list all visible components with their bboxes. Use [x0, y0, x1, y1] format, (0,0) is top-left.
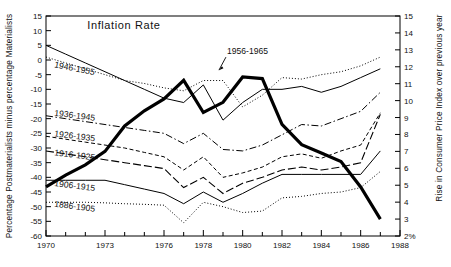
y-tick-label-right: 4 [404, 198, 409, 207]
y-tick-label-right: 2% [404, 232, 416, 241]
y-tick-label-left: 10 [33, 27, 42, 36]
y-tick-label-left: -30 [30, 144, 42, 153]
y-tick-label-left: -45 [30, 188, 42, 197]
x-tick-label: 1980 [234, 241, 252, 250]
y-tick-label-right: 8 [404, 130, 409, 139]
y-tick-label-right: 15 [404, 12, 413, 21]
y-tick-label-right: 14 [404, 29, 413, 38]
y-tick-label-left: -55 [30, 217, 42, 226]
y-tick-label-left: -20 [30, 115, 42, 124]
y-tick-label-left: -25 [30, 129, 42, 138]
y-tick-label-right: 5 [404, 181, 409, 190]
y-axis-right-title: Rise in Consumer Price Index over previo… [435, 14, 444, 201]
y-tick-label-right: 6 [404, 164, 409, 173]
y-tick-label-right: 10 [404, 97, 413, 106]
y-tick-label-right: 7 [404, 147, 409, 156]
y-tick-label-left: -5 [35, 71, 43, 80]
chart-title-label: Inflation Rate [87, 19, 160, 31]
x-tick-label: 1970 [37, 241, 55, 250]
y-tick-label-right: 11 [404, 80, 413, 89]
x-tick-label: 1984 [312, 241, 330, 250]
x-tick-label: 1982 [273, 241, 291, 250]
y-tick-label-left: -10 [30, 85, 42, 94]
y-tick-label-right: 13 [404, 46, 413, 55]
x-tick-label: 1978 [194, 241, 212, 250]
y-tick-label-left: -50 [30, 203, 42, 212]
series-label-1956-1965: 1956-1965 [227, 46, 268, 56]
y-tick-label-left: -60 [30, 232, 42, 241]
x-tick-label: 1986 [352, 241, 370, 250]
x-tick-label: 1976 [155, 241, 173, 250]
y-tick-label-left: 15 [33, 12, 42, 21]
y-axis-left-title: Percentage Postmaterialists minus percen… [5, 14, 14, 238]
y-tick-label-right: 3 [404, 215, 409, 224]
chart-figure: 197019731976197819801982198419861988 151… [0, 0, 451, 267]
y-tick-label-left: -35 [30, 159, 42, 168]
x-tick-label: 1988 [391, 241, 409, 250]
line-chart-canvas: 197019731976197819801982198419861988 151… [0, 0, 451, 267]
y-tick-label-right: 12 [404, 63, 413, 72]
y-tick-label-left: -15 [30, 100, 42, 109]
y-tick-label-right: 9 [404, 114, 409, 123]
y-tick-label-left: -40 [30, 173, 42, 182]
y-tick-label-left: 0 [38, 56, 43, 65]
y-tick-label-left: 5 [38, 41, 43, 50]
x-tick-label: 1973 [96, 241, 114, 250]
